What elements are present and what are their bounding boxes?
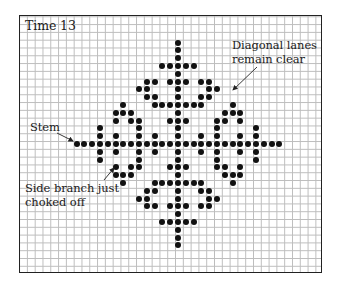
live-cell — [144, 94, 150, 100]
live-cell — [198, 180, 204, 186]
live-cell — [175, 211, 181, 217]
live-cell — [97, 157, 103, 163]
live-cell — [152, 203, 158, 209]
live-cell — [237, 172, 243, 178]
live-cell — [198, 133, 204, 139]
live-cell — [183, 141, 189, 147]
live-cell — [128, 172, 134, 178]
live-cell — [136, 133, 142, 139]
live-cell — [230, 102, 236, 108]
live-cell — [113, 149, 119, 155]
live-cell — [152, 102, 158, 108]
live-cell — [167, 219, 173, 225]
live-cell — [120, 141, 126, 147]
diagonal-lanes-line-1: Diagonal lanes — [232, 39, 317, 52]
live-cell — [97, 125, 103, 131]
live-cell — [159, 180, 165, 186]
live-cell — [113, 118, 119, 124]
live-cell — [198, 141, 204, 147]
live-cell — [214, 125, 220, 131]
live-cell — [175, 118, 181, 124]
live-cell — [222, 141, 228, 147]
live-cell — [175, 235, 181, 241]
live-cell — [175, 63, 181, 69]
live-cell — [89, 141, 95, 147]
live-cell — [175, 227, 181, 233]
live-cell — [230, 110, 236, 116]
live-cell — [183, 164, 189, 170]
live-cell — [167, 164, 173, 170]
live-cell — [230, 172, 236, 178]
live-cell — [175, 242, 181, 248]
live-cell — [120, 172, 126, 178]
live-cell — [183, 219, 189, 225]
live-cell — [175, 86, 181, 92]
live-cell — [144, 196, 150, 202]
live-cell — [206, 79, 212, 85]
live-cell — [167, 180, 173, 186]
live-cell — [175, 79, 181, 85]
live-cell — [222, 118, 228, 124]
live-cell — [237, 141, 243, 147]
side-branch-label: Side branch just choked off — [25, 182, 119, 209]
live-cell — [113, 110, 119, 116]
live-cell — [136, 86, 142, 92]
live-cell — [113, 141, 119, 147]
live-cell — [183, 180, 189, 186]
figure-title: Time 13 — [25, 19, 76, 32]
live-cell — [159, 219, 165, 225]
live-cell — [191, 102, 197, 108]
live-cell — [97, 133, 103, 139]
live-cell — [167, 203, 173, 209]
live-cell — [198, 79, 204, 85]
live-cell — [206, 196, 212, 202]
live-cell — [214, 141, 220, 147]
live-cell — [152, 79, 158, 85]
live-cell — [152, 149, 158, 155]
live-cell — [128, 164, 134, 170]
live-cell — [167, 63, 173, 69]
live-cell — [159, 102, 165, 108]
live-cell — [183, 118, 189, 124]
live-cell — [175, 164, 181, 170]
live-cell — [175, 133, 181, 139]
live-cell — [175, 94, 181, 100]
live-cell — [175, 188, 181, 194]
live-cell — [144, 203, 150, 209]
live-cell — [136, 164, 142, 170]
live-cell — [152, 141, 158, 147]
live-cell — [206, 86, 212, 92]
live-cell — [191, 63, 197, 69]
live-cell — [136, 157, 142, 163]
live-cell — [128, 141, 134, 147]
live-cell — [253, 149, 259, 155]
live-cell — [136, 118, 142, 124]
live-cell — [230, 180, 236, 186]
live-cell — [175, 172, 181, 178]
live-cell — [175, 180, 181, 186]
live-cell — [175, 141, 181, 147]
diagonal-lanes-line-2: remain clear — [232, 53, 317, 66]
live-cell — [269, 141, 275, 147]
live-cell — [152, 133, 158, 139]
live-cell — [167, 79, 173, 85]
live-cell — [214, 196, 220, 202]
live-cell — [136, 149, 142, 155]
live-cell — [144, 141, 150, 147]
live-cell — [167, 118, 173, 124]
live-cell — [191, 141, 197, 147]
live-cell — [237, 133, 243, 139]
live-cell — [144, 86, 150, 92]
live-cell — [120, 102, 126, 108]
live-cell — [175, 71, 181, 77]
live-cell — [261, 141, 267, 147]
live-cell — [113, 164, 119, 170]
live-cell — [136, 141, 142, 147]
live-cell — [214, 164, 220, 170]
live-cell — [159, 141, 165, 147]
live-cell — [175, 219, 181, 225]
live-cell — [120, 110, 126, 116]
live-cell — [183, 79, 189, 85]
live-cell — [237, 110, 243, 116]
live-cell — [120, 180, 126, 186]
